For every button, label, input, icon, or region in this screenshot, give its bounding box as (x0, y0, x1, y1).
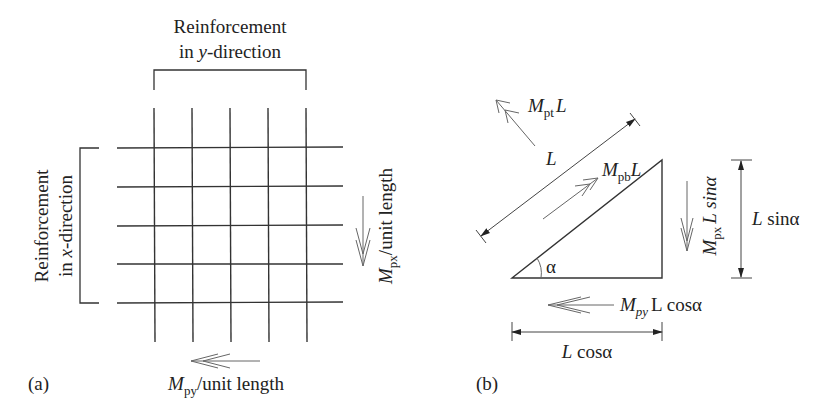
vertical-dimension-label: L sinα (751, 208, 800, 229)
mpb-double-arrow-icon (543, 178, 598, 219)
angle-arc (537, 258, 541, 278)
mpx-side-double-arrow-icon (681, 181, 693, 251)
mpx-double-arrow-icon (356, 196, 370, 266)
panel-b: α L MptL MpbL MpxL sinα (476, 95, 800, 395)
panel-b-label: (b) (476, 373, 498, 395)
horizontal-dimension-label: L cosα (561, 341, 613, 362)
svg-text:Reinforcement: Reinforcement (31, 169, 52, 283)
panel-a: Reinforcement in y-direction Reinforceme… (28, 16, 400, 398)
y-reinforcement-bracket (154, 70, 306, 90)
x-reinforcement-label: Reinforcement in x-direction (31, 169, 76, 283)
horizontal-dimension (512, 322, 662, 341)
mpy-side-label: MpyL cosα (619, 294, 702, 319)
svg-text:Mpx/unit length: Mpx/unit length (375, 168, 400, 285)
svg-text:MpxL sinα: MpxL sinα (699, 176, 724, 257)
y-reinforcement-label-line1: Reinforcement (174, 16, 288, 37)
length-label: L (545, 148, 557, 169)
panel-a-label: (a) (28, 373, 49, 395)
mpy-side-double-arrow-icon (548, 297, 614, 313)
svg-text:in x-direction: in x-direction (55, 175, 76, 277)
mpy-double-arrow-icon (191, 354, 260, 368)
mpy-per-unit-length-label: Mpy/unit length (167, 373, 284, 398)
mpx-per-unit-length-label: Mpx/unit length (375, 168, 400, 285)
angle-alpha-label: α (546, 256, 556, 277)
x-reinforcement-bracket (80, 148, 99, 303)
y-reinforcement-label-line2: in y-direction (179, 41, 281, 62)
mpx-side-label: MpxL sinα (699, 176, 724, 257)
yield-line-figure: Reinforcement in y-direction Reinforceme… (0, 0, 826, 419)
mpt-label: MptL (527, 95, 567, 120)
vertical-dimension (731, 160, 752, 278)
